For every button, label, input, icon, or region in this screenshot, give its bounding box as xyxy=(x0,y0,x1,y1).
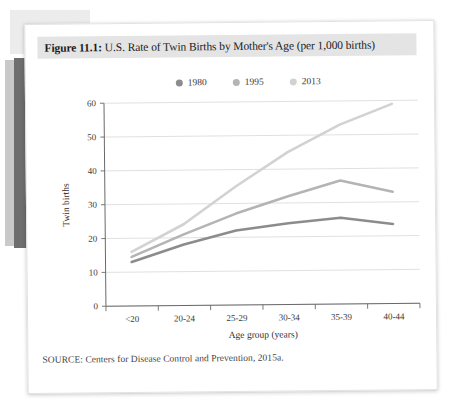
x-tick-label: 20-24 xyxy=(174,313,196,323)
y-tick-label: 40 xyxy=(88,166,98,176)
x-tick-label: 35-39 xyxy=(331,312,353,322)
y-tick-label: 10 xyxy=(89,267,99,277)
y-tick-label: 30 xyxy=(88,200,98,210)
y-tick-label: 20 xyxy=(88,234,98,244)
series-line-2013 xyxy=(130,104,393,252)
x-tick-label: 40-44 xyxy=(383,311,405,321)
x-tick-label: 30-34 xyxy=(279,312,301,322)
chart-plot-area: 0102030405060<2020-2425-2930-3435-3940-4… xyxy=(25,21,437,393)
screenshot-root: Figure 11.1: U.S. Rate of Twin Births by… xyxy=(0,0,464,415)
y-tick-label: 0 xyxy=(93,301,98,311)
figure-page-card: Figure 11.1: U.S. Rate of Twin Births by… xyxy=(24,20,438,394)
y-tick-label: 50 xyxy=(87,132,97,142)
x-axis-title: Age group (years) xyxy=(229,329,298,341)
y-tick-label: 60 xyxy=(87,98,97,108)
x-tick-label: <20 xyxy=(125,314,140,324)
x-tick-label: 25-29 xyxy=(226,313,248,323)
y-axis-title: Twin births xyxy=(61,183,71,227)
chart-svg: 0102030405060<2020-2425-2930-3435-3940-4… xyxy=(25,21,437,393)
